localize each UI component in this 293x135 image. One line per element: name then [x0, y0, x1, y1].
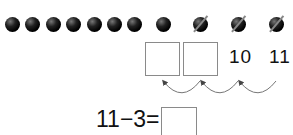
equation-answer-box[interactable]	[161, 107, 197, 135]
arrow-icon	[202, 81, 238, 93]
arrow-icon	[164, 81, 200, 93]
equation-text: 11−3=	[96, 106, 160, 133]
arrow-icon	[240, 81, 276, 93]
